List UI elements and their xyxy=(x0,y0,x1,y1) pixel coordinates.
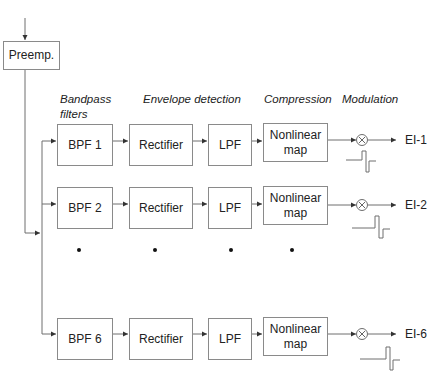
map-1-line1: Nonlinear xyxy=(270,128,321,143)
nonlinear-map-6-block: Nonlinear map xyxy=(263,317,328,356)
bpf-1-label: BPF 1 xyxy=(68,138,101,153)
ellipsis-dot-rectifier xyxy=(153,248,157,252)
rectifier-2-block: Rectifier xyxy=(129,187,193,229)
lpf-6-block: LPF xyxy=(208,318,252,360)
ellipsis-dot-map xyxy=(290,248,294,252)
rectifier-1-block: Rectifier xyxy=(129,124,193,166)
bpf-6-label: BPF 6 xyxy=(68,332,101,347)
bpf-1-block: BPF 1 xyxy=(57,124,113,166)
bpf-6-block: BPF 6 xyxy=(57,318,113,360)
map-1-line2: map xyxy=(284,143,307,158)
lpf-6-label: LPF xyxy=(219,332,241,347)
output-ei-1: EI-1 xyxy=(405,133,427,147)
bpf-2-block: BPF 2 xyxy=(57,187,113,229)
preemphasis-label: Preemp. xyxy=(9,48,54,63)
output-ei-6: EI-6 xyxy=(405,327,427,341)
lpf-2-block: LPF xyxy=(208,187,252,229)
header-bandpass-line2: filters xyxy=(60,107,111,122)
rectifier-6-label: Rectifier xyxy=(139,332,183,347)
header-bandpass: Bandpass filters xyxy=(60,92,111,122)
output-ei-2: EI-2 xyxy=(405,198,427,212)
header-envelope-detection: Envelope detection xyxy=(143,92,241,107)
header-compression: Compression xyxy=(264,92,332,107)
map-2-line1: Nonlinear xyxy=(270,191,321,206)
lpf-1-block: LPF xyxy=(208,124,252,166)
map-6-line2: map xyxy=(284,337,307,352)
nonlinear-map-2-block: Nonlinear map xyxy=(263,186,328,225)
map-2-line2: map xyxy=(284,206,307,221)
map-6-line1: Nonlinear xyxy=(270,322,321,337)
lpf-2-label: LPF xyxy=(219,201,241,216)
bpf-2-label: BPF 2 xyxy=(68,201,101,216)
lpf-1-label: LPF xyxy=(219,138,241,153)
ellipsis-dot-lpf xyxy=(229,248,233,252)
rectifier-2-label: Rectifier xyxy=(139,201,183,216)
header-modulation: Modulation xyxy=(342,92,398,107)
header-bandpass-line1: Bandpass xyxy=(60,92,111,107)
rectifier-6-block: Rectifier xyxy=(129,318,193,360)
rectifier-1-label: Rectifier xyxy=(139,138,183,153)
ellipsis-dot-bpf xyxy=(77,248,81,252)
preemphasis-block: Preemp. xyxy=(3,41,60,70)
nonlinear-map-1-block: Nonlinear map xyxy=(263,123,328,162)
